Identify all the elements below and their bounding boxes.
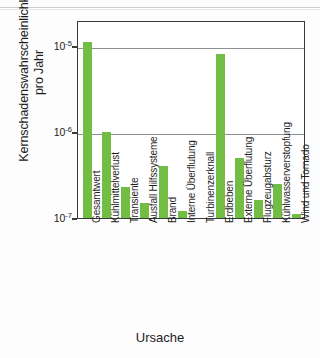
x-tick-label: Externe Überflutung (243, 137, 254, 223)
x-tick-label: Erdbeben (224, 181, 235, 223)
x-tick-label: Kühlwasserverstopfung (281, 122, 292, 223)
scan-artifact-line-secondary (0, 9, 320, 10)
x-tick-label: Gesamtwert (91, 171, 102, 223)
x-tick-label: Wind und Tornado (300, 144, 311, 223)
x-tick-label: Turbinenzerknall (205, 152, 216, 223)
x-tick-label: Transiente (129, 178, 140, 223)
y-tick-label: 10-6 (54, 126, 72, 138)
y-axis-title-line1: Kernschadenswahrscheinlichkeit (17, 0, 31, 162)
y-axis-title-line2: pro Jahr (31, 0, 46, 178)
chart-figure: Kernschadenswahrscheinlichkeit pro Jahr … (0, 0, 320, 358)
x-tick-label: Interne Überflutung (186, 140, 197, 223)
gridline (78, 134, 304, 135)
y-tick-label: 10-7 (54, 212, 72, 224)
x-tick-label: Brand (167, 197, 178, 223)
y-tick-label: 10-5 (54, 40, 72, 52)
x-tick-label: Kühlmittelverlust (110, 152, 121, 223)
x-axis-title: Ursache (0, 330, 320, 345)
y-axis-title: Kernschadenswahrscheinlichkeit pro Jahr (17, 0, 46, 178)
scan-artifact-line (0, 7, 320, 8)
x-tick-label: Ausfall Hilfssysteme (148, 137, 159, 223)
x-tick-label: Flugzeugabsturz (262, 151, 273, 223)
gridline (78, 48, 304, 49)
